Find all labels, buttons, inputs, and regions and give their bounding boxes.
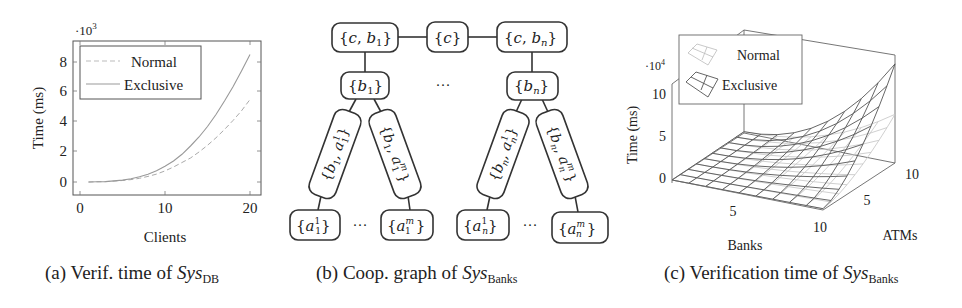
- caption-text: Coop. graph of: [343, 262, 458, 283]
- svg-text:{bn}: {bn}: [514, 77, 549, 96]
- caption-sys: Sys: [462, 262, 487, 283]
- caption-text: Verification time of: [690, 262, 839, 283]
- xtick-label: 5: [730, 204, 737, 219]
- svg-text:{a11}: {a11}: [296, 216, 331, 236]
- ytick-label: 8: [60, 54, 68, 70]
- caption-a: (a) Verif. time of SysDB: [45, 262, 219, 287]
- node-c-bn: {c, bn}: [497, 22, 567, 52]
- surface-gridline: [744, 114, 895, 137]
- node-b1-a1-1: {b1, a11}: [306, 107, 363, 201]
- ytick-label: 2: [60, 143, 68, 159]
- x-axis-label: Clients: [144, 229, 187, 245]
- y-multiplier: ·103: [75, 21, 97, 38]
- series-normal-line: [89, 100, 251, 183]
- xtick-label: 20: [243, 200, 258, 216]
- surface-gridline: [806, 83, 878, 206]
- node-a1-m: {am1}: [381, 210, 433, 240]
- node-bn-an-m: {bn, amn}: [533, 107, 590, 201]
- node-b1-a1-m: {b1, am1}: [366, 107, 423, 201]
- chart-a: 0 2 4 6 8 0 10 20 ·103 Time (ms) Clients…: [30, 21, 261, 245]
- surface-normal: [672, 114, 895, 208]
- node-bn: {bn}: [507, 72, 558, 100]
- ytick-label: 0: [60, 174, 68, 190]
- svg-text:{amn}: {amn}: [558, 219, 596, 239]
- legend-normal-label: Normal: [131, 54, 177, 70]
- svg-text:{c, b1}: {c, b1}: [339, 29, 392, 48]
- z-axis-label: Time (ms): [625, 106, 641, 165]
- y-axis-label: Time (ms): [30, 87, 47, 149]
- caption-sub: DB: [202, 272, 219, 286]
- svg-text:{c}: {c}: [434, 29, 462, 47]
- caption-text: Verif. time of: [71, 262, 173, 283]
- caption-sys: Sys: [177, 262, 202, 283]
- caption-sub: Banks: [868, 272, 898, 286]
- xtick-label: 10: [813, 220, 827, 235]
- svg-text:{am1}: {am1}: [387, 216, 425, 236]
- svg-text:{a1n}: {a1n}: [463, 216, 498, 236]
- svg-text:{b1}: {b1}: [348, 77, 383, 96]
- caption-prefix: (c): [664, 262, 685, 283]
- node-an-m: {amn}: [552, 212, 608, 243]
- caption-sub: Banks: [488, 272, 518, 286]
- ellipsis-middle: ···: [436, 77, 451, 93]
- xtick-label: 0: [76, 200, 84, 216]
- ztick-label: 5: [659, 129, 666, 144]
- legend-exclusive-label: Exclusive: [124, 77, 183, 93]
- caption-c: (c) Verification time of SysBanks: [664, 262, 898, 287]
- caption-prefix: (b): [316, 262, 338, 283]
- legend-normal-label: Normal: [737, 48, 780, 63]
- ytick-label: 4: [60, 113, 68, 129]
- surface-gridline: [672, 180, 823, 209]
- ztick-label: 0: [659, 171, 666, 186]
- node-c-b1: {c, b1}: [332, 23, 398, 52]
- ellipsis-left: ···: [353, 217, 368, 233]
- node-a1-1: {a11}: [290, 210, 340, 240]
- ztick-label: 10: [652, 87, 666, 102]
- node-b1: {b1}: [341, 72, 389, 99]
- node-c: {c}: [427, 22, 468, 52]
- chart-a-legend: Normal Exclusive: [80, 46, 201, 99]
- xtick-label: 10: [158, 200, 173, 216]
- svg-text:{c, bn}: {c, bn}: [504, 29, 557, 48]
- ytick-label: 10: [905, 167, 919, 182]
- chart-c-legend: Normal Exclusive: [679, 35, 802, 104]
- caption-prefix: (a): [45, 262, 66, 283]
- node-an-1: {a1n}: [457, 210, 509, 240]
- ellipsis-right: ···: [523, 217, 538, 233]
- caption-b: (b) Coop. graph of SysBanks: [316, 262, 518, 287]
- legend-exclusive-label: Exclusive: [722, 78, 777, 93]
- ytick-label: 6: [60, 83, 68, 99]
- chart-c: 10 5 0 ·104 Time (ms) 5 10 Banks 5 10 AT…: [625, 30, 919, 253]
- surface-gridline: [728, 107, 879, 147]
- node-bn-an-1: {bn, a1n}: [474, 107, 531, 201]
- z-multiplier: ·104: [645, 58, 665, 73]
- y-axis-label: ATMs: [882, 228, 917, 243]
- caption-sys: Sys: [843, 262, 868, 283]
- ytick-label: 5: [864, 193, 871, 208]
- x-axis-label: Banks: [728, 238, 763, 253]
